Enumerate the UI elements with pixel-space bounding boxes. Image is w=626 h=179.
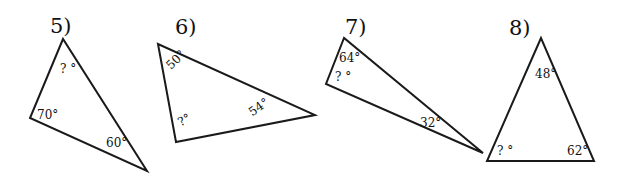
- problem-5-angle-left: 70°: [37, 109, 58, 121]
- worksheet-triangles: 5) ? ° 70° 60° 6) 50° ?° 54° 7) 64° ? ° …: [0, 0, 626, 179]
- triangles-figure: [0, 0, 626, 179]
- problem-7-angle-right: 32°: [420, 117, 441, 129]
- problem-8-angle-top: 48°: [535, 68, 556, 80]
- problem-5-angle-right: 60°: [106, 137, 127, 149]
- problem-8-angle-right: 62°: [567, 145, 588, 157]
- problem-7-number: 7): [345, 17, 367, 38]
- triangle-8: [487, 38, 594, 161]
- problem-5-angle-top: ? °: [60, 63, 76, 75]
- problem-8-number: 8): [509, 18, 531, 39]
- problem-8-angle-left: ? °: [497, 145, 513, 157]
- problem-6-number: 6): [175, 17, 197, 38]
- problem-7-angle-top: 64°: [339, 52, 360, 64]
- problem-5-number: 5): [50, 16, 72, 37]
- problem-7-angle-left: ? °: [335, 71, 351, 83]
- triangle-5: [30, 39, 147, 171]
